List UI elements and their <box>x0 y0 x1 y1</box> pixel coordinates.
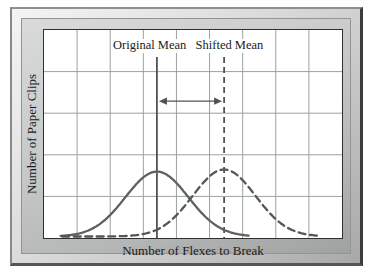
shifted-distribution-curve <box>62 170 320 237</box>
figure: Number of Paper Clips Original Mean Shif… <box>0 0 374 278</box>
arrowhead-left-icon <box>159 98 167 105</box>
metallic-frame: Number of Paper Clips Original Mean Shif… <box>10 7 363 266</box>
x-axis-label: Number of Flexes to Break <box>43 243 343 259</box>
arrowhead-right-icon <box>214 98 222 105</box>
y-axis-label-band: Number of Paper Clips <box>22 29 42 239</box>
frame-matte: Number of Paper Clips Original Mean Shif… <box>21 18 351 254</box>
chart-svg <box>44 30 342 238</box>
original-mean-label: Original Mean <box>111 39 188 53</box>
y-axis-label: Number of Paper Clips <box>24 74 40 194</box>
original-distribution-curve <box>61 172 249 236</box>
plot-area: Original Mean Shifted Mean <box>43 29 343 239</box>
shifted-mean-label: Shifted Mean <box>194 39 266 53</box>
